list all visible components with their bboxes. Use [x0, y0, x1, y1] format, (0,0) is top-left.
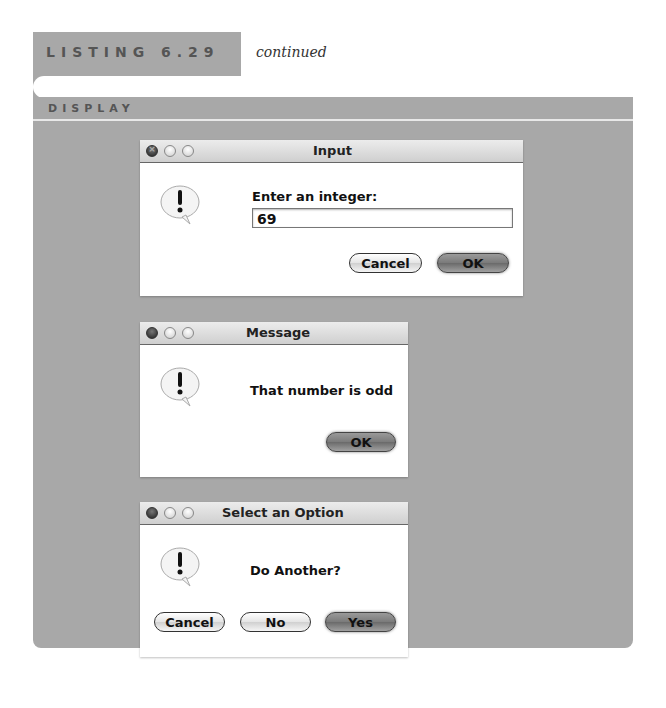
yes-button[interactable]: Yes: [325, 612, 396, 632]
header-band: [33, 76, 633, 98]
minimize-icon[interactable]: [164, 145, 176, 157]
minimize-icon[interactable]: [164, 327, 176, 339]
alert-icon: [158, 184, 202, 226]
close-icon[interactable]: ×: [146, 145, 158, 157]
message-text: Do Another?: [250, 563, 341, 578]
alert-icon: [158, 366, 202, 408]
title-bar[interactable]: Message: [140, 322, 408, 345]
dialog-title: Select an Option: [222, 505, 344, 520]
continued-label: continued: [256, 44, 327, 60]
message-dialog: Message That number is odd OK: [140, 322, 408, 477]
ok-button[interactable]: OK: [326, 432, 396, 452]
minimize-icon[interactable]: [164, 507, 176, 519]
close-icon[interactable]: [146, 507, 158, 519]
zoom-icon[interactable]: [182, 145, 194, 157]
dialog-title: Input: [313, 143, 352, 158]
option-dialog: Select an Option Do Another? Cancel No Y…: [140, 502, 408, 657]
input-dialog: × Input Enter an integer: 69 Cancel OK: [140, 140, 523, 296]
cancel-button[interactable]: Cancel: [154, 612, 225, 632]
prompt-label: Enter an integer:: [252, 189, 377, 204]
title-bar[interactable]: Select an Option: [140, 502, 408, 525]
ok-button[interactable]: OK: [437, 253, 509, 273]
zoom-icon[interactable]: [182, 507, 194, 519]
zoom-icon[interactable]: [182, 327, 194, 339]
dialog-title: Message: [246, 325, 310, 340]
display-label: DISPLAY: [48, 102, 135, 115]
listing-label: LISTING 6.29: [46, 44, 220, 60]
no-button[interactable]: No: [240, 612, 311, 632]
title-bar[interactable]: × Input: [140, 140, 523, 163]
close-icon[interactable]: [146, 327, 158, 339]
cancel-button[interactable]: Cancel: [349, 253, 422, 273]
integer-input[interactable]: 69: [252, 208, 513, 228]
message-text: That number is odd: [250, 383, 393, 398]
alert-icon: [158, 546, 202, 588]
